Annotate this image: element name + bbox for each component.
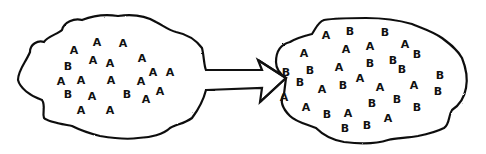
letter-b: B: [434, 86, 442, 97]
letter-a: A: [384, 113, 393, 124]
letter-a: A: [89, 55, 98, 66]
letter-a: A: [376, 82, 385, 93]
letter-a: A: [366, 41, 375, 52]
letter-b: B: [341, 123, 349, 134]
letter-a: A: [119, 38, 128, 49]
letter-b: B: [393, 94, 401, 105]
letter-b: B: [368, 98, 376, 109]
letter-a: A: [142, 94, 151, 105]
letter-b: B: [296, 77, 304, 88]
letter-a: A: [137, 76, 146, 87]
letter-b: B: [339, 80, 347, 91]
letter-a: A: [93, 37, 102, 48]
diagram: AAABAAAAAAAAABABAAAA ABBAAAABBBABBBBBAAB…: [0, 0, 486, 154]
letter-a: A: [88, 91, 97, 102]
letter-b: B: [366, 58, 374, 69]
letter-b: B: [381, 27, 389, 38]
letter-a: A: [106, 58, 115, 69]
letter-a: A: [300, 48, 309, 59]
letter-a: A: [335, 62, 344, 73]
left-cloud-outline: [18, 15, 214, 139]
letter-b: B: [413, 102, 421, 113]
letter-a: A: [77, 75, 86, 86]
letter-a: A: [138, 53, 147, 64]
letter-b: B: [323, 109, 331, 120]
letter-a: A: [318, 84, 327, 95]
letter-b: B: [413, 49, 421, 60]
letter-b: B: [64, 61, 72, 72]
letter-a: A: [401, 39, 410, 50]
letter-a: A: [107, 75, 116, 86]
letter-b: B: [398, 64, 406, 75]
letter-a: A: [106, 105, 115, 116]
letter-b: B: [282, 67, 290, 78]
letter-b: B: [123, 89, 131, 100]
letter-a: A: [410, 80, 419, 91]
letter-a: A: [342, 44, 351, 55]
letter-b: B: [389, 55, 397, 66]
letter-b: B: [436, 70, 444, 81]
letter-a: A: [344, 108, 353, 119]
letter-a: A: [156, 86, 165, 97]
arrow-icon: [206, 60, 286, 102]
letter-a: A: [57, 76, 66, 87]
letter-a: A: [77, 105, 86, 116]
letter-a: A: [302, 102, 311, 113]
letter-b: B: [306, 65, 314, 76]
letter-a: A: [356, 73, 365, 84]
diagram-shapes: [0, 0, 486, 154]
letter-a: A: [166, 67, 175, 78]
letter-b: B: [363, 120, 371, 131]
letter-b: B: [346, 26, 354, 37]
letter-a: A: [149, 67, 158, 78]
letter-a: A: [280, 92, 289, 103]
letter-a: A: [322, 30, 331, 41]
letter-b: B: [64, 89, 72, 100]
letter-a: A: [70, 45, 79, 56]
